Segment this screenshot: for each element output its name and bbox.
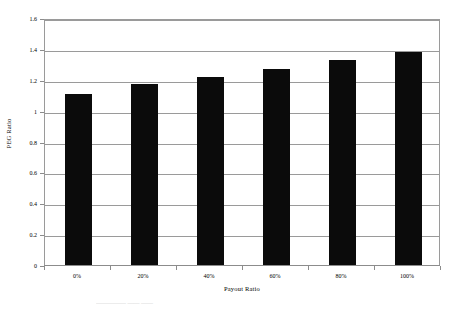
- figure-caption: ————— —— ——: [96, 299, 276, 306]
- x-axis-title: Payout Ratio: [44, 285, 440, 293]
- y-axis-tick-label: 0: [34, 263, 37, 269]
- x-axis-tick-label: 100%: [374, 272, 440, 280]
- bar-chart-figure: PEG Ratio 00.20.40.60.811.21.41.6 0%20%4…: [0, 0, 458, 311]
- x-axis-tick-label: 0%: [44, 272, 110, 280]
- bar-slot: [243, 20, 309, 265]
- x-axis-tick-marks: [44, 266, 440, 270]
- y-axis-tick-label: 0.6: [30, 170, 38, 176]
- bar: [65, 94, 92, 265]
- bar: [131, 84, 158, 265]
- y-axis-tick-label: 1.2: [30, 78, 38, 84]
- x-axis-tick-mark: [308, 266, 309, 270]
- x-axis-tick-mark: [374, 266, 375, 270]
- x-axis-tick-label: 80%: [308, 272, 374, 280]
- x-axis-tick-label: 20%: [110, 272, 176, 280]
- bar-slot: [177, 20, 243, 265]
- x-axis-tick-labels: 0%20%40%60%80%100%: [44, 272, 440, 282]
- bar-slot: [111, 20, 177, 265]
- bar: [197, 77, 224, 265]
- bars-layer: [45, 20, 439, 265]
- bar-slot: [45, 20, 111, 265]
- y-axis-tick-label: 1.4: [30, 47, 38, 53]
- x-axis-tick-mark: [176, 266, 177, 270]
- y-axis-tick-label: 1.6: [30, 16, 38, 22]
- bar-slot: [375, 20, 441, 265]
- x-axis-tick-mark: [44, 266, 45, 270]
- y-axis-tick-label: 1: [34, 109, 37, 115]
- y-axis-tick-labels: 00.20.40.60.811.21.41.6: [18, 19, 40, 266]
- plot-area: [44, 19, 440, 266]
- y-axis-tick-label: 0.4: [30, 201, 38, 207]
- x-axis-tick-label: 60%: [242, 272, 308, 280]
- x-axis-tick-mark: [110, 266, 111, 270]
- bar: [263, 69, 290, 265]
- bar: [395, 52, 422, 265]
- x-axis-tick-mark: [242, 266, 243, 270]
- bar: [329, 60, 356, 265]
- y-axis-tick-label: 0.2: [30, 232, 38, 238]
- y-axis-title-label: PEG Ratio: [6, 118, 13, 148]
- bar-slot: [309, 20, 375, 265]
- y-axis-title: PEG Ratio: [0, 0, 18, 266]
- y-axis-tick-label: 0.8: [30, 140, 38, 146]
- x-axis-tick-label: 40%: [176, 272, 242, 280]
- x-axis-tick-mark: [440, 266, 441, 270]
